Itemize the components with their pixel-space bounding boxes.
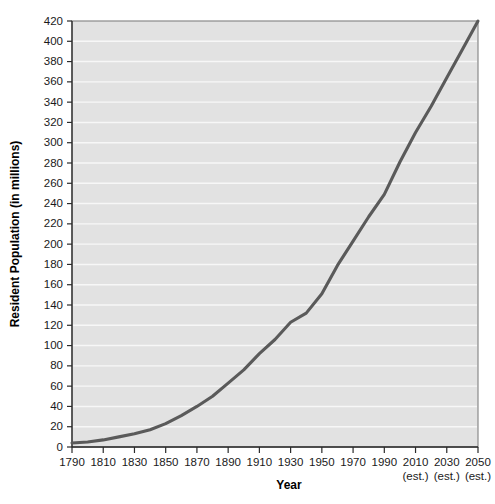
y-tick-label: 400	[44, 35, 63, 47]
y-tick-label: 360	[44, 75, 63, 87]
x-tick-sublabel: (est.)	[402, 470, 428, 482]
x-axis-title: Year	[276, 478, 302, 492]
x-tick-label: 1790	[59, 456, 85, 468]
y-tick-label: 80	[50, 359, 63, 371]
y-tick-label: 140	[44, 299, 63, 311]
y-tick-label: 20	[50, 420, 63, 432]
x-tick-label: 1970	[340, 456, 366, 468]
x-tick-label: 1890	[215, 456, 241, 468]
y-tick-label: 320	[44, 116, 63, 128]
x-tick-label: 1850	[153, 456, 179, 468]
y-tick-label: 380	[44, 55, 63, 67]
x-tick-label: 2050	[465, 456, 491, 468]
x-tick-label: 2030	[434, 456, 460, 468]
y-tick-label: 40	[50, 400, 63, 412]
y-tick-label: 160	[44, 278, 63, 290]
y-tick-label: 100	[44, 339, 63, 351]
chart-svg: 0204060801001201401601802002202402602803…	[0, 0, 495, 504]
y-tick-label: 280	[44, 157, 63, 169]
x-tick-sublabel: (est.)	[434, 470, 460, 482]
population-chart: 0204060801001201401601802002202402602803…	[0, 0, 495, 504]
y-tick-label: 420	[44, 15, 63, 27]
x-tick-label: 1930	[278, 456, 304, 468]
x-tick-label: 1810	[90, 456, 116, 468]
y-tick-label: 120	[44, 319, 63, 331]
y-tick-label: 180	[44, 258, 63, 270]
y-tick-label: 200	[44, 238, 63, 250]
y-tick-label: 260	[44, 177, 63, 189]
x-tick-label: 1950	[309, 456, 335, 468]
x-tick-sublabel: (est.)	[465, 470, 491, 482]
x-tick-label: 1870	[184, 456, 210, 468]
x-tick-label: 1830	[122, 456, 148, 468]
x-tick-label: 2010	[403, 456, 429, 468]
x-tick-label: 1990	[372, 456, 398, 468]
plot-area-background	[72, 21, 478, 447]
y-tick-label: 220	[44, 217, 63, 229]
y-tick-label: 0	[57, 441, 63, 453]
y-tick-label: 300	[44, 136, 63, 148]
y-axis-title: Resident Population (in millions)	[8, 141, 22, 328]
y-tick-label: 340	[44, 96, 63, 108]
y-tick-label: 60	[50, 380, 63, 392]
x-tick-label: 1910	[247, 456, 273, 468]
y-tick-label: 240	[44, 197, 63, 209]
